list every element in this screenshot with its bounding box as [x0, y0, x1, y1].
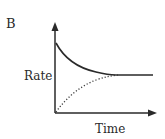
- y-axis-label: Rate: [24, 69, 52, 83]
- y-axis-arrow-icon: [52, 22, 59, 31]
- x-axis-arrow-icon: [148, 110, 157, 117]
- x-axis-label: Time: [95, 122, 125, 136]
- solid-rate-curve: [56, 43, 153, 75]
- dotted-rate-curve: [56, 75, 118, 112]
